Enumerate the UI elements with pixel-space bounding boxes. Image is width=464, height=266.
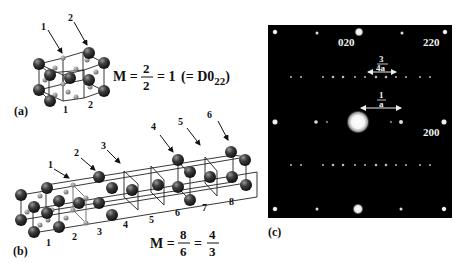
bottom-label-2: 2 — [88, 99, 93, 110]
arrow-b-2 — [81, 158, 95, 170]
panel-label-a: (a) — [14, 104, 28, 118]
arrow-label-2: 2 — [68, 12, 73, 23]
eq-b-num2: 4 — [209, 227, 216, 242]
bottom-b-label-7: 7 — [202, 202, 207, 213]
equation-a: M = 2 2 = 1 (= D022) — [113, 61, 230, 93]
spot-label-020: 020 — [338, 36, 355, 48]
bottom-b-label-1: 1 — [46, 237, 51, 248]
panel-label-b: (b) — [13, 244, 28, 258]
panel-b-structure — [15, 121, 257, 238]
spot-label-220: 220 — [423, 36, 440, 48]
large-atoms — [33, 47, 110, 107]
arrow-1 — [48, 30, 62, 53]
eq-a-numerator: 2 — [143, 61, 150, 76]
annot-upper-den: 4a — [376, 63, 386, 73]
arrow-b-label-5: 5 — [178, 116, 183, 127]
eq-b-lhs: M = — [150, 236, 175, 251]
eq-b-den1: 6 — [180, 244, 187, 259]
arrow-b-label-2: 2 — [74, 147, 79, 158]
bottom-b-label-2: 2 — [72, 231, 77, 242]
bottom-b-label-6: 6 — [175, 207, 180, 218]
bottom-b-label-8: 8 — [229, 196, 234, 207]
bottom-b-label-4: 4 — [123, 219, 128, 230]
bottom-b-label-5: 5 — [149, 214, 154, 225]
arrow-b-label-3: 3 — [101, 140, 106, 151]
arrow-b-3 — [107, 150, 120, 163]
eq-a-denominator: 2 — [143, 78, 150, 93]
supercell-edges — [21, 155, 257, 233]
eq-a-lhs: M = — [113, 69, 138, 84]
bottom-b-label-3: 3 — [97, 226, 102, 237]
bottom-label-1: 1 — [63, 104, 68, 115]
figure: 1 2 1 2 (a) M = 2 2 = 1 (= D022) — [0, 0, 464, 266]
arrow-label-1: 1 — [41, 21, 46, 32]
annot-lower-den: a — [379, 99, 384, 109]
arrow-b-label-4: 4 — [151, 121, 156, 132]
arrow-b-4 — [160, 135, 173, 152]
arrow-2 — [74, 22, 87, 45]
arrow-b-6 — [218, 121, 228, 140]
eq-b-den2: 3 — [209, 244, 216, 259]
diffraction-pattern — [268, 25, 452, 218]
panel-label-c: (c) — [268, 225, 281, 239]
eq-a-result: = 1 — [157, 69, 175, 84]
eq-b-num1: 8 — [180, 227, 187, 242]
eq-b-eq: = — [194, 236, 202, 251]
eq-a-note: (= D022) — [181, 69, 230, 87]
arrow-b-5 — [187, 128, 200, 145]
spot-label-200: 200 — [423, 126, 440, 138]
arrow-b-label-6: 6 — [207, 109, 212, 120]
panel-a-structure — [33, 22, 110, 107]
equation-b: M = 8 6 = 4 3 — [150, 227, 219, 259]
arrow-b-label-1: 1 — [48, 159, 53, 170]
arrow-b-1 — [54, 169, 69, 178]
transmitted-beam — [346, 110, 370, 134]
